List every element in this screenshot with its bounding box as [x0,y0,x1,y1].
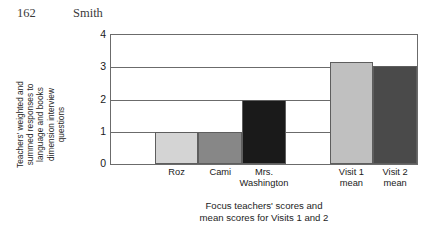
y-tick-label: 3 [92,60,106,72]
x-tick-label: Visit 2 mean [358,167,432,189]
bar [242,100,286,165]
x-axis-tick-labels: RozCamiMrs. WashingtonVisit 1 meanVisit … [111,167,417,197]
bar [330,62,374,164]
y-tick-label: 0 [92,157,106,169]
bars-layer [111,35,417,164]
x-axis-title: Focus teachers' scores and mean scores f… [110,200,418,224]
bar [373,66,417,164]
x-tick-label: Mrs. Washington [227,167,301,189]
y-tick-label: 4 [92,28,106,40]
y-tick-label: 1 [92,125,106,137]
bar [155,132,199,164]
bar-chart-figure: Teachers' weighted and summed responses … [0,0,437,236]
y-tick-label: 2 [92,93,106,105]
bar [198,132,242,164]
y-axis-title: Teachers' weighted and summed responses … [15,55,66,195]
y-axis-tick-labels: 01234 [92,34,106,165]
